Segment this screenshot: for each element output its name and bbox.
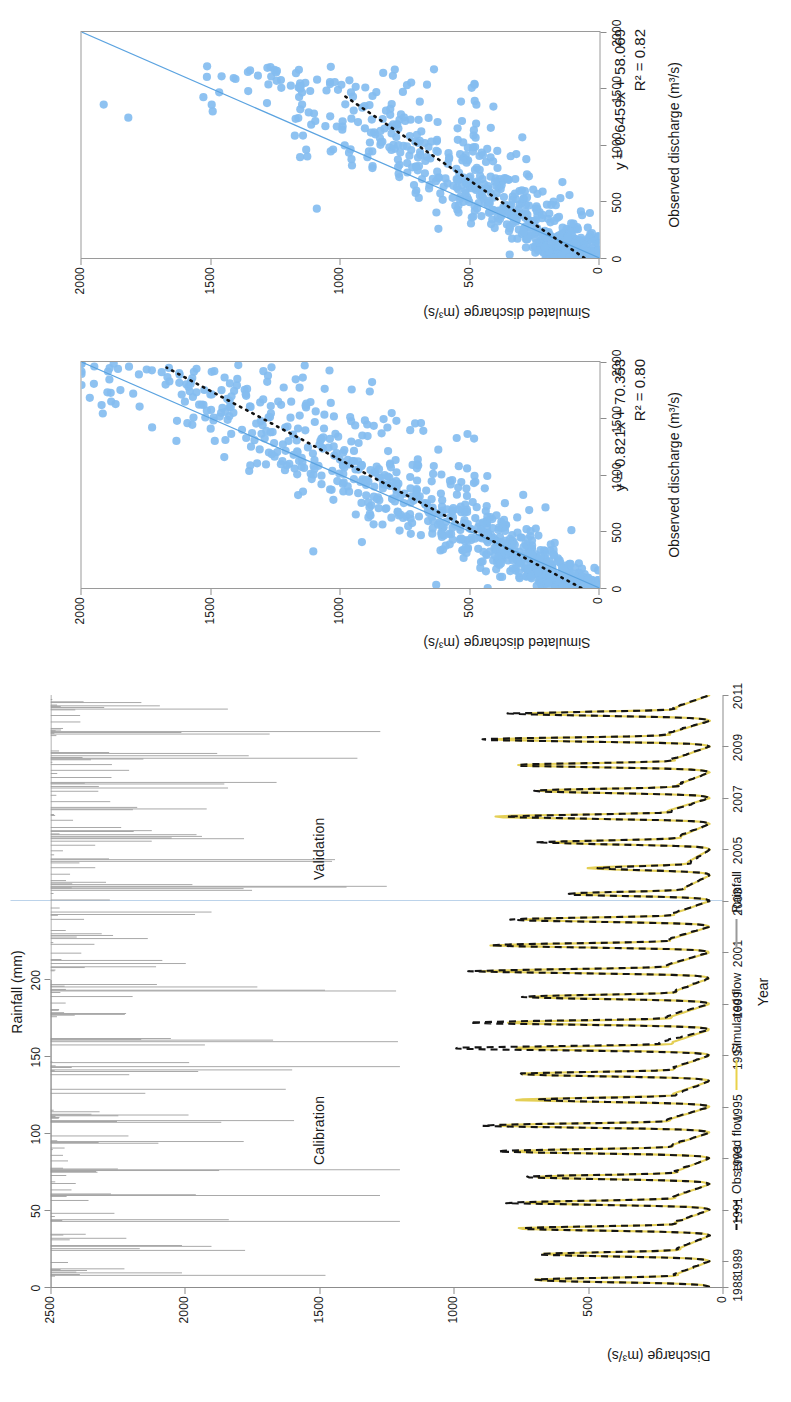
legend-label-simulated-flow: Simulated flow: [729, 973, 743, 1054]
x-tick-2000: 2000: [609, 341, 623, 385]
legend-item-rainfall: Rainfall: [729, 871, 743, 949]
discharge-tick-0: 0: [714, 1296, 728, 1338]
legend-item-observed-flow: Observed flow: [729, 1114, 743, 1230]
discharge-tick-1000: 1000: [445, 1296, 459, 1338]
y-tick-500: 500: [461, 267, 475, 311]
y-tick-2000: 2000: [72, 267, 86, 311]
y-tick-1000: 1000: [331, 267, 345, 311]
discharge-tick-500: 500: [580, 1296, 594, 1338]
year-tick-2009: 2009: [730, 727, 744, 767]
hydrograph-legend: Observed flow Simulated flow Rainfall: [729, 871, 743, 1230]
y-tick-2000: 2000: [72, 597, 86, 641]
validation-label: Validation: [310, 818, 326, 880]
year-tick-2005: 2005: [730, 830, 744, 870]
rainfall-tick-50: 50: [28, 1199, 42, 1223]
scatter-calibration-plot-area: [80, 361, 600, 589]
discharge-tick-1500: 1500: [311, 1296, 325, 1338]
legend-item-simulated-flow: Simulated flow: [729, 973, 743, 1090]
hydrograph-svg: [50, 695, 722, 1287]
scatter-validation-r2: R² = 0.82: [630, 29, 647, 277]
x-tick-1500: 1500: [609, 398, 623, 442]
y-tick-0: 0: [590, 267, 604, 311]
rainfall-tick-150: 150: [28, 1045, 42, 1069]
rainfall-tick-0: 0: [28, 1276, 42, 1300]
scatter-calibration-ylabel: Simulated discharge (m³/s): [423, 635, 590, 651]
year-tick-2007: 2007: [730, 779, 744, 819]
calibration-label: Calibration: [310, 1096, 326, 1165]
discharge-axis-title: Discharge (m³/s): [607, 1348, 710, 1364]
x-tick-0: 0: [609, 237, 623, 281]
rainfall-tick-200: 200: [28, 968, 42, 992]
figure-canvas: Rainfall (mm) Discharge (m³/s) Year 0501…: [0, 0, 791, 1402]
year-axis-title: Year: [754, 696, 770, 1288]
scatter-validation-plot-area: [80, 31, 600, 259]
x-axis-line: [722, 696, 723, 1288]
y-tick-1000: 1000: [331, 597, 345, 641]
y-tick-1500: 1500: [202, 267, 216, 311]
x-tick-1000: 1000: [609, 124, 623, 168]
year-tick-2011: 2011: [730, 676, 744, 716]
scatter-calibration-panel: y = 0.821x + 70.353 R² = 0.80 Observed d…: [20, 337, 760, 667]
scatter-validation-panel: y = 0.6459x + 58.069 R² = 0.82 Observed …: [20, 7, 760, 337]
x-tick-500: 500: [609, 181, 623, 225]
x-tick-1000: 1000: [609, 454, 623, 498]
hydrograph-panel: Rainfall (mm) Discharge (m³/s) Year 0501…: [10, 680, 780, 1380]
x-tick-0: 0: [609, 567, 623, 611]
solid-yellow-line-icon: [735, 1060, 737, 1090]
scatter-validation-xlabel: Observed discharge (m³/s): [665, 31, 681, 259]
rainfall-axis-title: Rainfall (mm): [8, 696, 24, 1288]
scatter-validation-ylabel: Simulated discharge (m³/s): [423, 305, 590, 321]
legend-label-observed-flow: Observed flow: [729, 1114, 743, 1194]
rainfall-tick-100: 100: [28, 1122, 42, 1146]
scatter-calibration-xlabel: Observed discharge (m³/s): [665, 361, 681, 589]
year-tick-1989: 1989: [730, 1242, 744, 1282]
x-tick-1500: 1500: [609, 68, 623, 112]
scatter-calibration-r2: R² = 0.80: [630, 359, 647, 607]
solid-grey-line-icon: [735, 919, 737, 949]
discharge-tick-2500: 2500: [42, 1296, 56, 1338]
y-tick-1500: 1500: [202, 597, 216, 641]
y-tick-0: 0: [590, 597, 604, 641]
scatter-calibration-svg: [81, 362, 599, 588]
legend-label-rainfall: Rainfall: [729, 871, 743, 913]
dashed-line-icon: [735, 1200, 737, 1230]
scatter-validation-svg: [81, 32, 599, 258]
hydrograph-plot-area: [50, 696, 722, 1288]
x-tick-2000: 2000: [609, 11, 623, 55]
y-tick-500: 500: [461, 597, 475, 641]
discharge-tick-2000: 2000: [176, 1296, 190, 1338]
x-tick-500: 500: [609, 511, 623, 555]
